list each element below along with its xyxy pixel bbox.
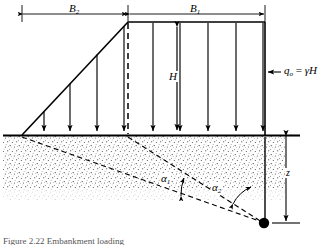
stress-point-marker bbox=[259, 218, 269, 228]
figure-caption: Figure 2.22 Embankment loading bbox=[3, 236, 315, 245]
figure-canvas bbox=[0, 0, 319, 245]
embankment-loading-figure: B2 B1 H z qo = γH α1 α2 Figure 2.22 Emba… bbox=[0, 0, 319, 245]
surcharge-load-label: qo = γH bbox=[284, 65, 317, 78]
angle-label-alpha2: α2 bbox=[211, 182, 222, 195]
angle-label-alpha1: α1 bbox=[160, 173, 171, 186]
depth-label-z: z bbox=[285, 168, 291, 178]
dimension-lines-top bbox=[22, 5, 265, 22]
embankment-outline bbox=[22, 22, 265, 135]
dimension-label-b2: B2 bbox=[69, 3, 79, 16]
soil-region bbox=[3, 136, 285, 200]
slope-pressure-arrows bbox=[44, 26, 124, 131]
dimension-label-b1: B1 bbox=[190, 3, 200, 16]
height-label-h: H bbox=[168, 71, 178, 82]
